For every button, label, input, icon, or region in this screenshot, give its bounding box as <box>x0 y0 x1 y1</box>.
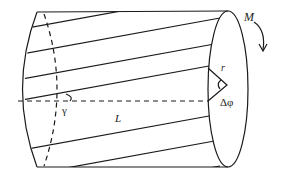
torsion-cylinder-diagram: M r Δφ γ L <box>0 0 286 177</box>
cylinder-top-edge <box>37 11 228 12</box>
cylinder-end-face <box>208 11 248 167</box>
shear-angle-arc <box>66 94 71 101</box>
twist-angle-arc <box>218 80 221 89</box>
label-radius: r <box>221 62 225 73</box>
label-moment: M <box>243 10 255 24</box>
label-twist-angle: Δφ <box>220 96 233 108</box>
moment-arrow <box>254 22 264 50</box>
label-length: L <box>114 112 121 124</box>
original-generatrix-dashed <box>44 14 57 166</box>
cylinder-left-edge <box>23 12 38 167</box>
label-shear-angle: γ <box>61 104 67 116</box>
helical-lines <box>0 0 220 177</box>
